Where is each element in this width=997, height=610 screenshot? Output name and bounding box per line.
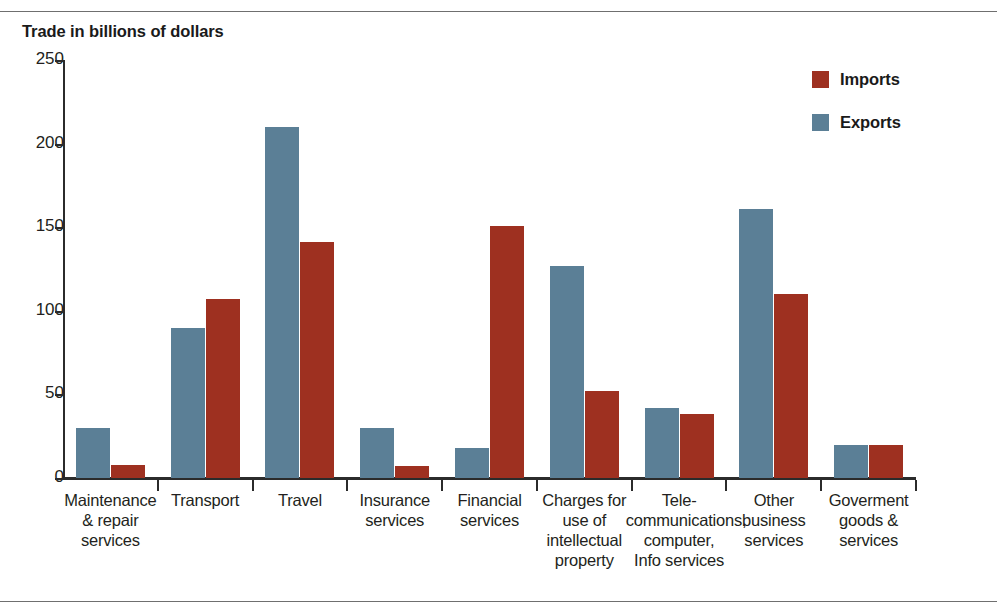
y-tick-label: 100	[18, 300, 64, 320]
x-axis-label-line: Info services	[626, 550, 733, 570]
x-axis-label-line: Tele-	[626, 490, 733, 510]
x-axis-label: Otherbusinessservices	[720, 490, 827, 550]
bar-exports	[76, 428, 110, 478]
bar-imports	[680, 414, 714, 478]
bar-imports	[869, 445, 903, 478]
y-tick-mark	[55, 311, 64, 313]
x-axis-label-line: communications,	[626, 510, 733, 530]
x-axis-label-line: services	[720, 530, 827, 550]
y-tick-label: 200	[18, 133, 64, 153]
y-tick-label: 150	[18, 216, 64, 236]
bar-imports	[774, 294, 808, 478]
bar-exports	[455, 448, 489, 478]
bar-exports	[171, 328, 205, 478]
y-tick-mark	[55, 394, 64, 396]
x-axis-label: Maintenance& repairservices	[57, 490, 164, 550]
x-axis-label-line: Transport	[152, 490, 259, 510]
legend-item: Exports	[812, 113, 901, 132]
bar-exports	[645, 408, 679, 478]
x-axis-label: Insuranceservices	[341, 490, 448, 530]
x-axis-label-line: Maintenance	[57, 490, 164, 510]
x-axis-label-line: Insurance	[341, 490, 448, 510]
x-axis-label-line: intellectual	[531, 530, 638, 550]
x-axis-label: Charges foruse ofintellectualproperty	[531, 490, 638, 570]
bar-exports	[739, 209, 773, 478]
bar-exports	[360, 428, 394, 478]
x-axis-label: Transport	[152, 490, 259, 510]
y-tick-mark	[55, 60, 64, 62]
y-tick-label: 0	[18, 467, 64, 487]
x-axis-label-line: Financial	[436, 490, 543, 510]
bar-exports	[550, 266, 584, 478]
y-tick-mark	[55, 478, 64, 480]
imports-swatch-icon	[812, 71, 829, 88]
x-axis-label-line: computer,	[626, 530, 733, 550]
y-tick-label: 50	[18, 383, 64, 403]
x-axis-label-line: property	[531, 550, 638, 570]
y-tick-mark	[55, 144, 64, 146]
x-axis-label-line: services	[815, 530, 922, 550]
x-axis-label: Financialservices	[436, 490, 543, 530]
x-axis-label-line: business	[720, 510, 827, 530]
legend-item: Imports	[812, 70, 901, 89]
x-axis-label-line: Other	[720, 490, 827, 510]
x-axis-label-line: & repair	[57, 510, 164, 530]
x-axis-label: Govermentgoods &services	[815, 490, 922, 550]
bar-exports	[834, 445, 868, 478]
x-axis-label: Travel	[247, 490, 354, 510]
x-axis-label-line: Travel	[247, 490, 354, 510]
y-tick-label: 250	[18, 49, 64, 69]
bar-imports	[490, 226, 524, 478]
legend-label: Imports	[840, 70, 900, 89]
y-axis-line	[63, 60, 65, 479]
x-axis-label-line: goods &	[815, 510, 922, 530]
exports-swatch-icon	[812, 114, 829, 131]
y-tick-mark	[55, 227, 64, 229]
bar-exports	[265, 127, 299, 478]
legend-label: Exports	[840, 113, 901, 132]
x-axis-label-line: services	[341, 510, 448, 530]
x-axis-label: Tele-communications,computer,Info servic…	[626, 490, 733, 570]
x-axis-label-line: services	[436, 510, 543, 530]
bar-imports	[111, 465, 145, 478]
x-axis-label-line: services	[57, 530, 164, 550]
bar-imports	[300, 242, 334, 478]
bar-imports	[206, 299, 240, 478]
chart-legend: ImportsExports	[812, 70, 901, 156]
bar-imports	[395, 466, 429, 478]
x-axis-label-line: Goverment	[815, 490, 922, 510]
x-axis-label-line: Charges for	[531, 490, 638, 510]
x-axis-label-line: use of	[531, 510, 638, 530]
chart-figure: Trade in billions of dollars 05010015020…	[0, 0, 997, 610]
bar-imports	[585, 391, 619, 478]
